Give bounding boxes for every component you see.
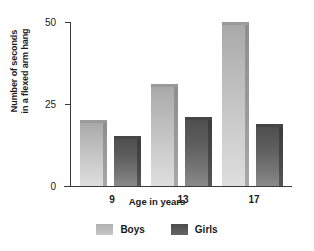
y-tick-mark-25: 25 [65,104,71,105]
bar-boys-13 [151,84,178,186]
bar-girls-13 [185,117,212,186]
bar-side-face [174,87,178,186]
legend-label-boys: Boys [120,224,144,235]
bar-front-face [256,127,279,186]
bar-boys-17 [222,22,249,186]
y-axis-title: Number of seconds in a flexed arm hang [9,3,39,139]
x-axis-title: Age in years [0,196,314,207]
bar-boys-9 [80,120,107,186]
legend-item-boys: Boys [96,224,144,235]
y-axis-title-line1: Number of seconds [9,3,20,139]
y-tick-label-0: 0 [50,181,56,192]
bar-side-face [245,25,249,186]
girls-swatch-icon [171,224,188,235]
bar-side-face [103,123,107,186]
bar-side-face [137,139,141,186]
bar-side-face [279,127,283,186]
boys-swatch-icon [96,224,113,235]
bar-front-face [151,87,174,186]
legend-item-girls: Girls [171,224,218,235]
y-tick-mark-0: 0 [65,186,71,187]
x-axis-line [64,186,292,187]
bar-front-face [222,25,245,186]
y-tick-mark-50: 50 [65,22,71,23]
y-tick-label-50: 50 [45,17,56,28]
bar-front-face [80,123,103,186]
bar-girls-17 [256,124,283,186]
y-axis-title-line2: in a flexed arm hang [20,3,31,139]
chart-legend: Boys Girls [0,224,314,235]
bar-front-face [185,120,208,186]
bar-chart-figure: Number of seconds in a flexed arm hang 5… [0,0,314,251]
bar-side-face [208,120,212,186]
legend-label-girls: Girls [195,224,218,235]
plot-area: 50 25 0 [70,22,292,187]
bar-front-face [114,139,137,186]
bar-girls-9 [114,136,141,186]
y-tick-label-25: 25 [45,99,56,110]
